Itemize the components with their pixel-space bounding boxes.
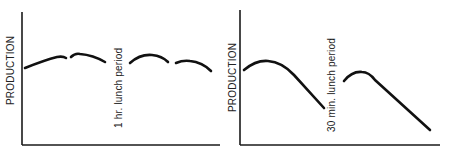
right-y-axis-label: PRODUCTION [227, 43, 238, 112]
left-curve-3 [130, 55, 168, 63]
right-lunch-annotation: 30 min. lunch period [326, 38, 337, 132]
left-curve-1 [25, 57, 66, 68]
right-chart: PRODUCTION 30 min. lunch period [227, 10, 440, 145]
production-charts: PRODUCTION 1 hr. lunch period PRODUCTION… [0, 0, 458, 154]
left-curve-2 [71, 54, 105, 62]
left-curve-4 [176, 61, 211, 71]
right-curve-1 [244, 61, 324, 108]
right-curve-2 [344, 72, 430, 130]
left-lunch-annotation: 1 hr. lunch period [113, 48, 124, 128]
left-y-axis-label: PRODUCTION [5, 36, 16, 105]
left-chart: PRODUCTION 1 hr. lunch period [5, 12, 220, 145]
